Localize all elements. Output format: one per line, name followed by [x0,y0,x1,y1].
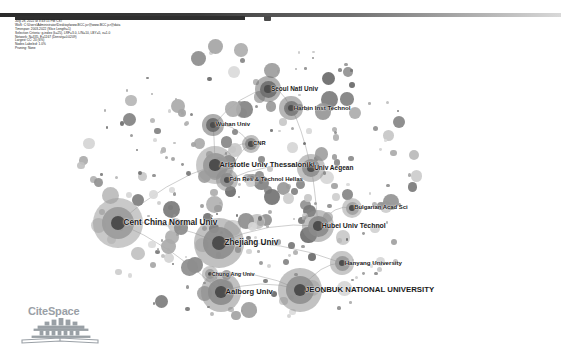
network-node[interactable] [151,93,153,95]
network-node[interactable] [77,162,85,170]
network-node[interactable] [210,215,212,217]
network-node[interactable] [386,101,389,104]
network-node[interactable] [186,285,190,289]
network-node[interactable] [333,134,340,141]
network-node[interactable] [131,247,145,261]
network-node[interactable] [287,142,298,153]
network-node[interactable] [390,150,396,156]
network-node[interactable] [147,215,150,218]
network-edges [0,20,561,320]
network-node-label: Univ Aegean [314,164,353,171]
network-node[interactable] [332,154,337,159]
network-node[interactable] [172,263,174,265]
network-node[interactable] [374,272,378,276]
network-node[interactable] [181,259,198,276]
network-node[interactable] [266,225,269,228]
network-node[interactable] [169,187,175,193]
network-node[interactable] [362,272,365,275]
network-node[interactable] [173,214,176,217]
network-node[interactable] [232,129,238,135]
network-node[interactable] [386,184,390,188]
network-node[interactable] [241,302,257,318]
network-node[interactable] [191,142,196,147]
network-node[interactable] [168,109,172,113]
network-node[interactable] [408,182,417,191]
network-node[interactable] [173,142,176,145]
network-node[interactable] [125,95,136,106]
network-node-label: Seoul Natl Univ [271,85,318,92]
network-node[interactable] [337,238,341,242]
network-node[interactable] [164,253,174,263]
network-node[interactable] [351,279,354,282]
network-node[interactable] [161,147,167,153]
network-node-label: JEONBUK NATIONAL UNIVERSITY [305,285,434,294]
network-node[interactable] [334,131,337,134]
network-node[interactable] [258,216,262,220]
network-node[interactable] [312,57,314,59]
network-node[interactable] [304,67,307,70]
network-node-label: Hanyang University [345,259,402,266]
network-node[interactable] [287,314,291,318]
network-node-label: Chung Ang Univ [212,271,255,277]
network-node[interactable] [327,204,331,208]
network-node[interactable] [148,241,155,248]
network-node[interactable] [163,201,180,218]
network-node[interactable] [153,138,157,142]
network-node[interactable] [130,134,133,137]
network-node[interactable] [384,139,387,142]
network-node[interactable] [257,250,259,252]
network-node[interactable] [337,306,341,310]
network-node[interactable] [368,102,371,105]
network-node[interactable] [349,82,355,88]
network-node[interactable] [128,273,132,277]
network-node[interactable] [304,194,312,202]
network-node[interactable] [210,189,218,197]
network-node[interactable] [338,68,342,72]
network-node[interactable] [293,250,298,255]
network-node[interactable] [270,129,273,132]
network-node[interactable] [411,170,422,181]
network-node[interactable] [409,150,419,160]
network-node[interactable] [303,142,306,145]
network-node[interactable] [312,51,314,53]
network-node[interactable] [349,301,352,304]
network-node[interactable] [283,259,289,265]
network-node[interactable] [214,205,222,213]
network-node[interactable] [346,183,349,186]
network-node-label: Harbin Inst Technol [294,104,351,111]
network-graph-canvas[interactable]: Seoul Natl UnivHarbin Inst TechnolWuhan … [0,20,561,320]
network-node[interactable] [210,312,214,316]
network-node[interactable] [234,43,248,57]
network-node[interactable] [94,178,103,187]
network-node[interactable] [331,183,337,189]
network-node-label: Bulgarian Acad Sci [354,204,407,210]
network-node[interactable] [186,171,191,176]
network-node[interactable] [165,156,168,159]
network-node[interactable] [306,128,312,134]
network-node[interactable] [191,51,206,66]
network-node[interactable] [200,204,204,208]
network-node-label: CNR [253,140,265,146]
network-node[interactable] [298,51,300,53]
network-node[interactable] [190,113,193,116]
network-node[interactable] [225,101,241,117]
network-node[interactable] [175,98,178,101]
network-node[interactable] [362,232,365,235]
network-node[interactable] [185,307,189,311]
network-node[interactable] [278,130,281,133]
citespace-logo: CiteSpace [12,305,108,349]
network-node[interactable] [100,173,102,175]
network-node[interactable] [346,238,348,240]
network-node[interactable] [185,121,189,125]
network-node[interactable] [267,264,271,268]
network-node-label: Aristotle Univ Thessaloniki [219,160,314,169]
network-node[interactable] [308,253,316,261]
network-node[interactable] [246,249,252,255]
network-node[interactable] [240,58,245,63]
citespace-temple-book-icon [12,318,108,348]
network-node[interactable] [221,136,232,147]
network-node[interactable] [263,279,267,283]
network-node-label: Zhejiang Univ [225,238,279,247]
network-node[interactable] [350,69,353,72]
network-node[interactable] [154,128,161,135]
